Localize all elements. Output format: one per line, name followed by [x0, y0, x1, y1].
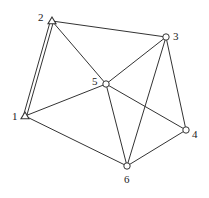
- node-2: 2: [38, 11, 56, 24]
- node-label: 4: [192, 128, 198, 140]
- edge-1-2: [23, 21, 50, 116]
- edge-5-3: [106, 37, 166, 84]
- node-label: 2: [38, 11, 44, 23]
- graph-diagram: 123456: [0, 0, 209, 198]
- edge-2-5: [52, 21, 106, 84]
- edge-3-6: [127, 37, 166, 166]
- node-label: 3: [173, 30, 179, 42]
- edge-1-6: [25, 116, 127, 166]
- triangle-node-icon: [48, 17, 56, 24]
- graph-canvas: 123456: [0, 0, 209, 198]
- node-1: 1: [12, 110, 29, 122]
- edge-2-3: [52, 21, 166, 37]
- circle-node-icon: [103, 81, 109, 87]
- node-3: 3: [163, 30, 179, 42]
- circle-node-icon: [124, 163, 130, 169]
- edge-3-4: [166, 37, 186, 130]
- node-5: 5: [92, 75, 109, 87]
- node-label: 6: [124, 173, 130, 185]
- node-label: 1: [12, 110, 18, 122]
- circle-node-icon: [183, 127, 189, 133]
- edge-5-4: [106, 84, 186, 130]
- node-label: 5: [92, 75, 98, 87]
- edge-5-6: [106, 84, 127, 166]
- node-4: 4: [183, 127, 198, 140]
- circle-node-icon: [163, 34, 169, 40]
- nodes-layer: 123456: [12, 11, 198, 185]
- edge-1-2: [27, 21, 54, 116]
- edges-layer: [23, 21, 186, 166]
- edge-1-5: [25, 84, 106, 116]
- node-6: 6: [124, 163, 130, 185]
